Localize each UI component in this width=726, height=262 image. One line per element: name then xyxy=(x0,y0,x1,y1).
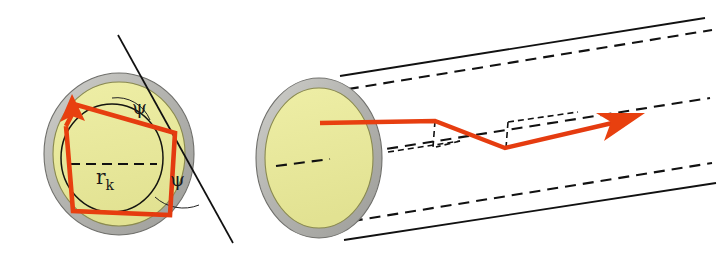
figure-canvas: rk ψ ψ xyxy=(0,0,726,262)
right-fiber-perspective xyxy=(256,18,716,240)
diagram-svg: rk ψ ψ xyxy=(0,0,726,262)
angle-label-lower: ψ xyxy=(170,168,185,190)
core-wall-bottom-dashed xyxy=(334,163,712,224)
core-wall-top-dashed xyxy=(330,30,712,92)
reflection-normal-2 xyxy=(506,122,508,148)
reflection-normal-1 xyxy=(433,121,435,147)
angle-label-upper: ψ xyxy=(132,96,147,118)
left-fiber-cross-section: rk ψ ψ xyxy=(44,35,233,243)
fiber-wall-top-solid xyxy=(340,18,705,76)
end-face-core xyxy=(265,88,373,228)
